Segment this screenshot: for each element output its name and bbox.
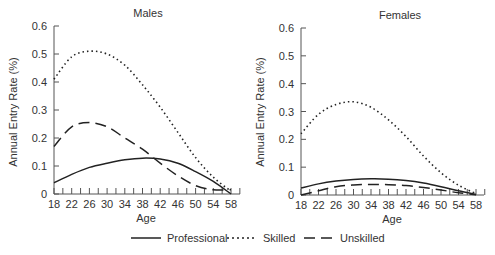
legend-item-skilled: Skilled — [227, 232, 295, 244]
y-tick-label: 0.2 — [32, 132, 47, 144]
y-tick-label: 0.3 — [279, 106, 294, 118]
x-tick-label: 34 — [365, 199, 377, 211]
x-tick-label: 30 — [101, 198, 113, 210]
dashed-line-swatch-icon — [304, 233, 334, 243]
males-y-axis-label: Annual Entry Rate (%) — [7, 57, 19, 166]
x-tick-label: 58 — [225, 198, 237, 210]
females-panel: Females Annual Entry Rate (%) Age 00.10.… — [254, 9, 485, 225]
y-tick-label: 0 — [41, 188, 47, 200]
x-tick-label: 58 — [470, 199, 482, 211]
x-tick-label: 34 — [119, 198, 131, 210]
females-x-axis-label: Age — [382, 213, 402, 225]
x-tick-label: 26 — [330, 199, 342, 211]
females-title: Females — [379, 9, 422, 21]
x-tick-label: 26 — [83, 198, 95, 210]
females-lines — [301, 102, 476, 195]
legend-label-unskilled: Unskilled — [340, 232, 385, 244]
legend-item-professional: Professional — [131, 232, 228, 244]
y-tick-label: 0.2 — [279, 133, 294, 145]
legend: Professional Skilled Unskilled — [0, 232, 495, 250]
y-tick-label: 0.6 — [279, 22, 294, 34]
y-tick-label: 0 — [288, 189, 294, 201]
males-lines — [54, 51, 231, 194]
chart-canvas: Males Annual Entry Rate (%) Age 00.10.20… — [0, 0, 495, 255]
males-axes: 00.10.20.30.40.50.6182226303438424650545… — [32, 20, 240, 210]
x-tick-label: 22 — [312, 199, 324, 211]
y-tick-label: 0.6 — [32, 20, 47, 32]
x-tick-label: 46 — [417, 199, 429, 211]
males-panel: Males Annual Entry Rate (%) Age 00.10.20… — [7, 7, 240, 224]
males-title: Males — [133, 7, 163, 19]
x-tick-label: 54 — [452, 199, 464, 211]
x-tick-label: 38 — [382, 199, 394, 211]
y-tick-label: 0.5 — [279, 50, 294, 62]
y-tick-label: 0.4 — [279, 78, 294, 90]
males-x-axis-label: Age — [136, 212, 156, 224]
y-tick-label: 0.1 — [32, 160, 47, 172]
x-tick-label: 46 — [172, 198, 184, 210]
legend-label-professional: Professional — [167, 232, 228, 244]
x-tick-label: 22 — [66, 198, 78, 210]
x-tick-label: 42 — [154, 198, 166, 210]
females-y-axis-label: Annual Entry Rate (%) — [254, 57, 266, 166]
legend-label-skilled: Skilled — [263, 232, 295, 244]
y-tick-label: 0.5 — [32, 48, 47, 60]
y-tick-label: 0.4 — [32, 76, 47, 88]
x-tick-label: 30 — [347, 199, 359, 211]
x-tick-label: 54 — [207, 198, 219, 210]
x-tick-label: 18 — [48, 198, 60, 210]
y-tick-label: 0.1 — [279, 161, 294, 173]
y-tick-label: 0.3 — [32, 104, 47, 116]
unskilled-line — [54, 123, 231, 191]
x-tick-label: 38 — [136, 198, 148, 210]
legend-item-unskilled: Unskilled — [304, 232, 385, 244]
solid-line-swatch-icon — [131, 233, 161, 243]
x-tick-label: 18 — [295, 199, 307, 211]
x-tick-label: 42 — [400, 199, 412, 211]
x-tick-label: 50 — [189, 198, 201, 210]
dotted-line-swatch-icon — [227, 233, 257, 243]
x-tick-label: 50 — [435, 199, 447, 211]
